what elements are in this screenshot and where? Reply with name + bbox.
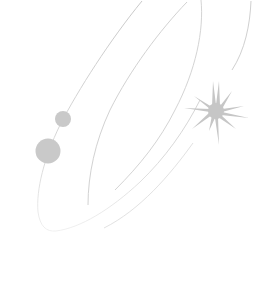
orbit-lines-icon	[0, 0, 274, 292]
star-icon	[184, 81, 249, 145]
orbit-line-3	[115, 0, 202, 190]
orbit-line-2	[88, 2, 187, 205]
orbit-illustration	[0, 0, 274, 292]
planet-large-icon	[36, 139, 61, 164]
planet-small-icon	[55, 111, 71, 127]
orbit-line-4-upper	[232, 1, 251, 70]
orbit-line-4-lower	[104, 143, 193, 228]
